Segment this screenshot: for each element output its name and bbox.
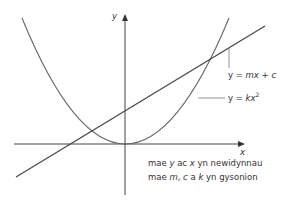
x-axis-label: x (240, 148, 245, 157)
caption-line-1: mae y ac x yn newidynnau (148, 159, 262, 168)
line-equation-label: y = mx + c (228, 71, 276, 80)
caption-line-2: mae m, c a k yn gysonion (148, 173, 258, 182)
parabola-equation-label: y = kx2 (228, 94, 259, 103)
y-axis-label: y (112, 12, 117, 21)
y-axis-arrow-icon (122, 14, 128, 21)
